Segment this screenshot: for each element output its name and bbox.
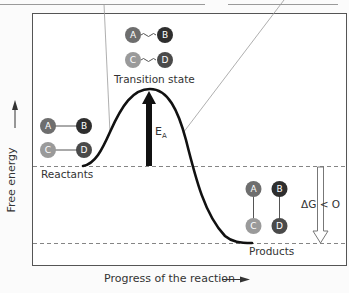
energy-diagram: A B C D A B C D A B C D Tra [0, 0, 349, 293]
x-axis-label: Progress of the reaction [104, 272, 235, 285]
y-axis-label: Free energy [5, 147, 18, 212]
activation-energy-symbol: E [155, 125, 162, 138]
atom-c-label: C [130, 55, 136, 65]
plot-frame [33, 14, 347, 266]
atom-a-label: A [250, 184, 257, 194]
atom-c-label: C [45, 145, 51, 155]
atom-d-label: D [276, 221, 283, 231]
atom-a-label: A [130, 30, 137, 40]
atom-b-label: B [276, 184, 282, 194]
atom-d-label: D [81, 145, 88, 155]
atom-a-label: A [45, 121, 52, 131]
transition-state-label: Transition state [114, 73, 195, 85]
activation-energy-subscript: A [162, 132, 167, 140]
delta-g-label: ΔG < O [301, 198, 340, 210]
atom-d-label: D [162, 55, 169, 65]
x-axis-arrow-head [240, 277, 250, 283]
y-axis-label-wrap: Free energy [4, 120, 18, 240]
activation-energy-arrow-shaft [146, 102, 152, 166]
diagram-graphics: A B C D A B C D A B C D [0, 0, 349, 293]
atom-b-label: B [162, 30, 168, 40]
activation-energy-label: EA [155, 125, 167, 140]
reactants-label: Reactants [41, 168, 93, 180]
y-axis-arrow-head [12, 100, 18, 110]
atom-c-label: C [250, 221, 256, 231]
products-label: Products [249, 245, 294, 257]
atom-b-label: B [81, 121, 87, 131]
